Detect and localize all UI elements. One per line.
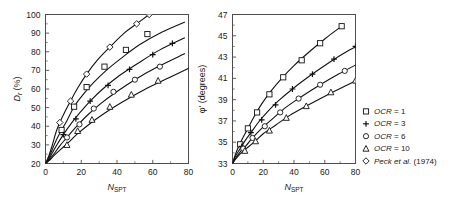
circle-marker bbox=[64, 135, 69, 140]
x-tick-label: 40 bbox=[112, 167, 122, 177]
square-marker bbox=[145, 31, 150, 36]
data-series bbox=[233, 44, 359, 164]
x-tick-label: 20 bbox=[259, 167, 269, 177]
x-axis-title-text: NSPT bbox=[284, 182, 303, 193]
series-line bbox=[233, 45, 359, 163]
legend-item[interactable]: Peck et al. (1974) bbox=[363, 157, 437, 166]
x-tick-label: 60 bbox=[320, 167, 330, 177]
circle-marker bbox=[77, 122, 82, 127]
x-tick-label: 0 bbox=[43, 167, 48, 177]
x-axis-ticks: 020406080 bbox=[43, 160, 193, 177]
circle-marker bbox=[111, 89, 116, 94]
square-marker bbox=[281, 75, 286, 80]
legend-label-rest: = 10 bbox=[392, 144, 411, 153]
square-marker bbox=[339, 24, 344, 29]
square-marker bbox=[123, 47, 128, 52]
circle-marker bbox=[342, 68, 347, 73]
y-tick-label: 40 bbox=[31, 121, 41, 131]
triangle-marker bbox=[155, 78, 161, 84]
circle-marker bbox=[91, 106, 96, 111]
square-marker bbox=[245, 126, 250, 131]
data-series bbox=[46, 67, 193, 164]
x-tick-label: 20 bbox=[77, 167, 87, 177]
diamond-marker bbox=[363, 158, 369, 164]
data-series bbox=[233, 63, 359, 163]
x-tick-label: 40 bbox=[289, 167, 299, 177]
y-tick-label: 20 bbox=[31, 159, 41, 169]
y-tick-label: 80 bbox=[31, 47, 41, 57]
y-tick-label: 33 bbox=[218, 159, 228, 169]
x-tick-label: 60 bbox=[148, 167, 158, 177]
legend-item-label: OCR = 3 bbox=[374, 119, 406, 128]
legend-item-label: Peck et al. (1974) bbox=[374, 157, 437, 166]
circle-marker bbox=[363, 134, 368, 139]
legend-label-rest: = 3 bbox=[392, 119, 406, 128]
triangle-marker bbox=[89, 117, 95, 123]
x-axis-title-sub: SPT bbox=[291, 186, 304, 193]
data-series bbox=[46, 11, 153, 163]
triangle-marker bbox=[353, 77, 359, 83]
figure-svg: 2030405060708090100020406080NSPTDr (%)33… bbox=[0, 0, 465, 200]
square-marker bbox=[84, 85, 89, 90]
legend-item-label: OCR = 6 bbox=[374, 132, 406, 141]
legend-label-italic: OCR bbox=[374, 132, 392, 141]
diamond-marker bbox=[67, 98, 73, 104]
y-axis-title-text: Dr (%) bbox=[12, 76, 23, 101]
y-tick-label: 90 bbox=[31, 28, 41, 38]
y-tick-label: 60 bbox=[31, 84, 41, 94]
legend: OCR = 1OCR = 3OCR = 6OCR = 10Peck et al.… bbox=[363, 107, 437, 166]
x-axis-title-text: NSPT bbox=[107, 182, 126, 193]
legend-item[interactable]: OCR = 6 bbox=[363, 132, 405, 141]
y-tick-label: 37 bbox=[218, 116, 228, 126]
x-axis-ticks: 020406080 bbox=[230, 160, 360, 177]
relative-density-chart: 2030405060708090100020406080NSPTDr (%) bbox=[12, 10, 194, 193]
series-markers bbox=[64, 64, 162, 140]
square-marker bbox=[255, 110, 260, 115]
series-group bbox=[233, 24, 359, 164]
y-tick-label: 43 bbox=[218, 52, 228, 62]
legend-label-italic: OCR bbox=[374, 144, 392, 153]
friction-angle-chart: 3335373941434547020406080NSPTφ' (degrees… bbox=[197, 10, 361, 193]
triangle-marker bbox=[128, 91, 134, 97]
y-axis-ticks: 3335373941434547 bbox=[218, 10, 236, 169]
legend-label-rest: = 1 bbox=[392, 107, 406, 116]
triangle-marker bbox=[283, 115, 289, 121]
series-line bbox=[233, 63, 359, 163]
y-axis-title-unit: (%) bbox=[12, 76, 22, 93]
y-axis-title-text: φ' (degrees) bbox=[197, 65, 207, 114]
triangle-marker bbox=[107, 104, 113, 110]
legend-item-label: OCR = 10 bbox=[374, 144, 410, 153]
y-tick-label: 50 bbox=[31, 103, 41, 113]
legend-label-italic: OCR bbox=[374, 119, 392, 128]
circle-marker bbox=[262, 124, 267, 129]
square-marker bbox=[363, 109, 368, 114]
y-tick-label: 30 bbox=[31, 140, 41, 150]
series-line bbox=[46, 15, 150, 164]
diamond-marker bbox=[57, 119, 63, 125]
y-tick-label: 70 bbox=[31, 65, 41, 75]
x-tick-label: 80 bbox=[184, 167, 194, 177]
x-tick-label: 80 bbox=[351, 167, 361, 177]
y-tick-label: 100 bbox=[26, 10, 40, 20]
figure-container: 2030405060708090100020406080NSPTDr (%)33… bbox=[0, 0, 465, 200]
triangle-marker bbox=[75, 128, 81, 134]
square-marker bbox=[72, 104, 77, 109]
square-marker bbox=[318, 41, 323, 46]
y-axis-ticks: 2030405060708090100 bbox=[26, 10, 49, 169]
triangle-marker bbox=[303, 103, 309, 109]
x-axis-title-sub: SPT bbox=[114, 186, 127, 193]
x-axis-title: NSPT bbox=[107, 182, 126, 193]
legend-label-italic: OCR bbox=[374, 107, 392, 116]
circle-marker bbox=[132, 77, 137, 82]
legend-item[interactable]: OCR = 10 bbox=[363, 144, 410, 153]
square-marker bbox=[299, 58, 304, 63]
legend-item[interactable]: OCR = 1 bbox=[363, 107, 405, 116]
legend-item[interactable]: OCR = 3 bbox=[363, 119, 406, 128]
circle-marker bbox=[278, 110, 283, 115]
x-axis-title: NSPT bbox=[284, 182, 303, 193]
triangle-marker bbox=[64, 142, 70, 148]
y-tick-label: 39 bbox=[218, 95, 228, 105]
legend-label-italic: Peck et al. bbox=[374, 157, 411, 166]
series-group bbox=[46, 11, 193, 163]
square-marker bbox=[267, 92, 272, 97]
